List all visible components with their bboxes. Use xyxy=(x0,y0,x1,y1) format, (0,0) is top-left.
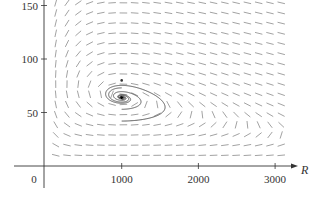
field-segment xyxy=(165,23,172,24)
field-segment xyxy=(176,22,183,23)
field-segment xyxy=(223,112,227,118)
field-segment xyxy=(222,93,228,96)
field-segment xyxy=(143,53,150,54)
field-segment xyxy=(154,53,161,54)
field-segment xyxy=(165,63,172,65)
field-segment xyxy=(233,33,240,35)
field-segment xyxy=(65,10,69,16)
field-segment xyxy=(176,43,183,44)
field-segment xyxy=(188,43,195,45)
field-segment xyxy=(109,13,116,14)
field-segment xyxy=(199,43,206,45)
field-segment xyxy=(188,63,195,65)
field-segment xyxy=(222,22,229,24)
field-segment xyxy=(109,23,116,24)
field-segment xyxy=(165,43,172,44)
field-segment xyxy=(97,124,104,125)
field-segment xyxy=(132,103,138,107)
field-segment xyxy=(210,134,217,136)
field-segment xyxy=(244,83,250,85)
field-segment xyxy=(65,20,69,26)
field-segment xyxy=(87,71,92,76)
field-segment xyxy=(154,73,161,75)
field-segment xyxy=(176,33,183,34)
field-segment xyxy=(212,112,215,118)
field-segment xyxy=(247,121,248,128)
field-segment xyxy=(87,102,92,106)
field-segment xyxy=(66,91,67,98)
field-segment xyxy=(55,111,57,117)
field-segment xyxy=(233,22,240,24)
field-segment xyxy=(176,63,183,65)
field-segment xyxy=(190,111,192,118)
field-segment xyxy=(54,122,57,128)
field-segment xyxy=(256,133,261,137)
field-segment xyxy=(199,63,206,65)
field-segment xyxy=(165,33,172,34)
field-segment xyxy=(199,73,205,75)
field-segment xyxy=(222,12,229,14)
field-segment xyxy=(131,74,138,75)
field-segment xyxy=(210,93,216,96)
x-axis-label: R xyxy=(300,163,309,177)
field-segment xyxy=(200,102,205,106)
field-segment xyxy=(255,32,262,34)
field-segment xyxy=(154,83,160,85)
field-segment xyxy=(278,43,285,45)
field-segment xyxy=(178,112,182,118)
field-segment xyxy=(244,145,251,146)
field-segment xyxy=(143,83,150,85)
field-segment xyxy=(66,40,69,46)
field-segment xyxy=(177,83,183,85)
field-segment xyxy=(98,33,105,35)
field-segment xyxy=(143,93,149,96)
field-segment xyxy=(98,53,105,55)
field-segment xyxy=(222,134,228,136)
field-segment xyxy=(165,83,171,85)
field-segment xyxy=(278,73,285,75)
field-segment xyxy=(98,114,105,116)
field-segment xyxy=(77,91,79,98)
field-segment xyxy=(109,53,116,54)
field-segment xyxy=(233,93,239,96)
field-segment xyxy=(244,22,251,24)
field-segment xyxy=(76,61,80,67)
field-segment xyxy=(211,122,216,127)
field-segment xyxy=(244,133,250,136)
field-segment xyxy=(131,114,138,115)
field-segment xyxy=(188,93,194,96)
y-tick-label: 50 xyxy=(27,107,39,119)
field-segment xyxy=(109,43,116,44)
field-segment xyxy=(76,21,81,25)
field-segment xyxy=(267,2,274,4)
field-segment xyxy=(267,12,274,14)
field-segment xyxy=(86,124,93,126)
field-segment xyxy=(55,91,56,98)
field-segment xyxy=(255,2,262,4)
field-segment xyxy=(234,112,239,117)
field-segment xyxy=(235,122,237,129)
field-segment xyxy=(278,155,285,156)
field-segment xyxy=(256,103,262,106)
field-segment xyxy=(154,124,161,125)
x-tick-label: 1000 xyxy=(111,173,134,185)
x-tick-label: 3000 xyxy=(264,173,287,185)
equilibrium-point xyxy=(120,79,123,82)
field-segment xyxy=(210,73,216,75)
field-segment xyxy=(233,83,239,85)
field-segment xyxy=(143,13,150,14)
field-segment xyxy=(267,22,274,24)
field-segment xyxy=(267,93,273,95)
field-segment xyxy=(267,155,274,156)
field-segment xyxy=(189,102,194,107)
field-segment xyxy=(165,53,172,54)
field-segment xyxy=(255,144,262,145)
field-segment xyxy=(86,134,93,135)
field-segment xyxy=(255,63,262,65)
field-segment xyxy=(188,134,195,135)
field-segment xyxy=(199,83,205,85)
field-segment xyxy=(267,43,274,45)
field-segment xyxy=(55,20,57,27)
field-segment xyxy=(210,12,217,13)
field-segment xyxy=(100,91,101,98)
